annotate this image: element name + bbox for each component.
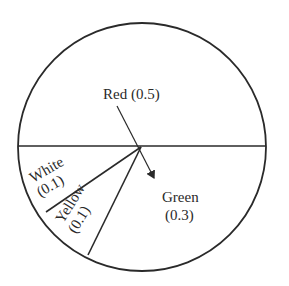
pie-outline	[18, 23, 266, 271]
green-name: Green	[162, 189, 199, 205]
red-label: Red (0.5)	[103, 86, 160, 103]
green-value: (0.3)	[165, 207, 194, 224]
pie-chart: Red (0.5) Green (0.3) White (0.1) Yellow…	[0, 0, 289, 286]
